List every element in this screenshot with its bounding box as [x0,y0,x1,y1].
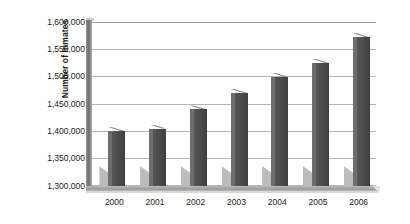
x-axis-tick-label: 2000 [91,196,137,208]
bar-front-face [194,109,207,186]
x-axis-floor-edge [86,191,378,193]
bar-front-face [275,77,288,186]
bar-front-face [112,131,125,186]
y-axis-tick-label: 1,600,000 [29,17,85,27]
bar-front-face [153,129,166,186]
y-axis-tick-label: 1,400,000 [29,126,85,136]
y-axis-tick-label: 1,350,000 [29,153,85,163]
y-axis-tick-label: 1,300,000 [29,181,85,191]
plot-top-border [91,22,376,23]
x-axis-tick-label: 2006 [336,196,382,208]
y-axis-tick-label: 1,450,000 [29,99,85,109]
x-axis-tick-label: 2001 [132,196,178,208]
bar-front-face [357,37,370,186]
x-axis-tick-label: 2002 [173,196,219,208]
bar-chart-figure: Number of Inmates 1,600,000 1,550,000 1,… [0,0,410,224]
x-axis-tick-label: 2003 [214,196,260,208]
y-axis-tick-label-group: 1,600,000 1,550,000 1,500,000 1,450,000 … [30,0,88,224]
y-axis-tick-label: 1,500,000 [29,71,85,81]
gridline [91,76,376,77]
plot-area [91,22,376,186]
x-axis-tick-label: 2005 [295,196,341,208]
y-axis-tick-label: 1,550,000 [29,44,85,54]
gridline [91,49,376,50]
x-axis-tick-label: 2004 [254,196,300,208]
x-axis-tick-label-group: 2000200120022003200420052006 [91,196,376,210]
bar-front-face [235,93,248,186]
bar-front-face [316,63,329,186]
y-axis-wall [86,20,92,188]
